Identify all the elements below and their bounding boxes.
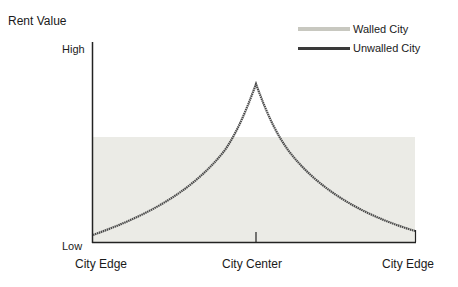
- x-tick-label-center: City Center: [222, 257, 282, 271]
- walled-city-area: [93, 137, 415, 242]
- x-tick-label-right: City Edge: [382, 257, 434, 271]
- x-tick-label-left: City Edge: [75, 257, 127, 271]
- chart-plot: [0, 0, 458, 287]
